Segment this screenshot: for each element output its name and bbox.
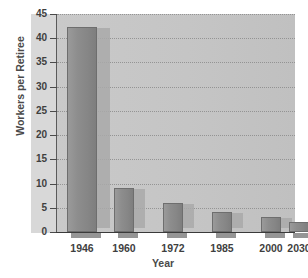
bar-1960 — [114, 188, 134, 232]
bar-shadow-1972 — [182, 204, 194, 228]
x-tick-label-1985: 1985 — [196, 242, 248, 254]
y-tick-label-20: 20 — [7, 129, 47, 140]
y-axis-line — [56, 14, 57, 233]
x-tick-label-1972: 1972 — [147, 242, 199, 254]
bar-shadow-1960 — [133, 189, 145, 228]
x-axis-line — [56, 232, 295, 233]
y-tick-label-25: 25 — [7, 105, 47, 116]
y-tick-label-10: 10 — [7, 178, 47, 189]
y-tick-40 — [50, 38, 57, 39]
plot-area: 45 40 35 30 25 20 15 10 5 0 — [31, 14, 295, 233]
y-tick-10 — [50, 184, 57, 185]
y-tick-label-45: 45 — [7, 8, 47, 19]
bar-1946 — [67, 27, 97, 232]
y-tick-label-40: 40 — [7, 32, 47, 43]
bar-foot-2000 — [265, 233, 285, 238]
y-tick-label-5: 5 — [7, 202, 47, 213]
x-tick-label-1960: 1960 — [98, 242, 150, 254]
bar-shadow-1946 — [96, 28, 110, 228]
y-tick-label-0: 0 — [7, 226, 47, 237]
y-tick-15 — [50, 159, 57, 160]
gridline-45 — [57, 14, 295, 16]
y-tick-45 — [50, 14, 57, 15]
y-tick-label-15: 15 — [7, 153, 47, 164]
x-axis-title: Year — [30, 257, 296, 269]
y-tick-5 — [50, 208, 57, 209]
bar-1985 — [212, 212, 232, 232]
bar-foot-1946 — [71, 233, 101, 238]
x-tick-label-2030: 2030 — [273, 242, 308, 254]
bar-chart: Workers per Retiree 45 40 35 30 — [0, 0, 308, 278]
y-tick-label-30: 30 — [7, 81, 47, 92]
y-tick-25 — [50, 111, 57, 112]
y-tick-30 — [50, 87, 57, 88]
axis-margin-background — [31, 14, 57, 233]
bar-foot-1985 — [216, 233, 236, 238]
bar-2030 — [289, 222, 308, 232]
bar-1972 — [163, 203, 183, 232]
bar-shadow-1985 — [231, 213, 243, 228]
bar-foot-2030 — [293, 233, 308, 238]
bar-2000 — [261, 217, 281, 232]
y-tick-35 — [50, 62, 57, 63]
bar-foot-1960 — [118, 233, 138, 238]
bar-foot-1972 — [167, 233, 187, 238]
y-tick-20 — [50, 135, 57, 136]
y-tick-label-35: 35 — [7, 56, 47, 67]
